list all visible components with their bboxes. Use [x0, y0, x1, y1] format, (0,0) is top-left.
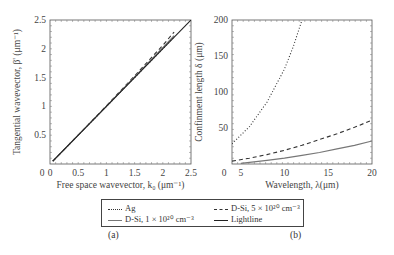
y-tick-label: 0.5 [34, 130, 46, 140]
series-line [241, 141, 372, 163]
legend-item-lightline: Lightline [214, 214, 262, 224]
x-axis-label: Free space wavevector, k₀ (μm⁻¹) [57, 180, 185, 191]
x-axis-label: Wavelength, λ(μm) [265, 180, 338, 191]
y-tick-label: 50 [219, 123, 229, 133]
gray-line-swatch [108, 220, 122, 221]
chart-panel-b: 5101520050100150200Wavelength, λ(μm)Conf… [194, 15, 377, 191]
x-tick-label: 10 [280, 168, 290, 178]
y-tick-label: 100 [214, 87, 229, 97]
y-tick-label: 0 [222, 168, 227, 178]
panel-label-a: (a) [108, 230, 119, 240]
y-tick-label: 150 [214, 51, 229, 61]
solid-line-swatch [214, 220, 228, 221]
x-tick-label: 15 [324, 168, 334, 178]
x-tick-label: 0 [48, 168, 53, 178]
x-tick-label: 1 [104, 168, 109, 178]
y-tick-label: 1.5 [34, 73, 46, 83]
origin-label: 0 [40, 168, 45, 178]
series-line [53, 20, 191, 161]
legend-item-dsi-5e20: D-Si, 5 × 10²⁰ cm⁻³ [214, 203, 300, 213]
panel-label-b: (b) [290, 230, 301, 240]
dotted-line-swatch [108, 209, 122, 210]
x-tick-label: 2.5 [185, 168, 197, 178]
series-line [232, 20, 302, 144]
plot-frame [232, 20, 372, 164]
legend-item-dsi-1e20: D-Si, 1 × 10²⁰ cm⁻³ [108, 214, 194, 224]
legend-item-ag: Ag [108, 203, 135, 213]
legend: Ag D-Si, 5 × 10²⁰ cm⁻³ D-Si, 1 × 10²⁰ cm… [101, 199, 304, 227]
x-tick-label: 5 [238, 168, 243, 178]
y-tick-label: 2.5 [34, 15, 46, 25]
y-axis-label: Tangential wavevector, β' (μm⁻¹) [12, 29, 23, 155]
x-tick-label: 0.5 [72, 168, 84, 178]
x-tick-label: 2 [160, 168, 165, 178]
y-tick-label: 200 [214, 15, 229, 25]
y-tick-label: 2 [41, 44, 46, 54]
x-tick-label: 1.5 [129, 168, 141, 178]
y-axis-label: Confinment length δ (μm) [194, 42, 205, 142]
y-tick-label: 1 [41, 101, 46, 111]
chart-panel-a: 00.511.522.50.511.522.50Free space wavev… [12, 15, 197, 191]
dashed-line-swatch [214, 209, 228, 210]
x-tick-label: 20 [367, 168, 377, 178]
